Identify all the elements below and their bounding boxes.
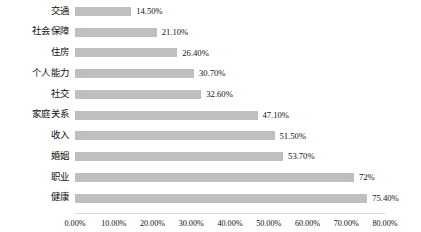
chart-plot-area: 交通14.50%社会保障21.10%住房26.40%个人能力30.70%社交32…: [0, 0, 421, 213]
bar-value-label: 75.40%: [372, 194, 399, 203]
bar-row: 家庭关系47.10%: [0, 105, 421, 126]
horizontal-bar-chart: 交通14.50%社会保障21.10%住房26.40%个人能力30.70%社交32…: [0, 0, 421, 232]
bar: [75, 111, 258, 120]
category-label: 收入: [0, 131, 69, 140]
bar-row: 个人能力30.70%: [0, 63, 421, 84]
bar-row: 社会保障21.10%: [0, 22, 421, 43]
bar-value-label: 21.10%: [162, 28, 189, 37]
bar-value-label: 32.60%: [206, 90, 233, 99]
x-tick-label: 10.00%: [101, 220, 126, 228]
bar-value-label: 53.70%: [288, 152, 315, 161]
x-tick-label: 40.00%: [217, 220, 242, 228]
bar-value-label: 47.10%: [263, 111, 290, 120]
bar-container: 32.60%: [75, 84, 233, 105]
x-tick-label: 20.00%: [140, 220, 165, 228]
category-label: 交通: [0, 7, 69, 16]
x-tick-label: 50.00%: [256, 220, 281, 228]
bar-container: 21.10%: [75, 22, 188, 43]
bar-container: 51.50%: [75, 126, 306, 147]
x-tick-label: 30.00%: [179, 220, 204, 228]
category-label: 住房: [0, 48, 69, 57]
category-label: 婚姻: [0, 152, 69, 161]
bar-value-label: 72%: [359, 173, 375, 182]
bar-row: 住房26.40%: [0, 43, 421, 64]
bar: [75, 173, 354, 182]
bar: [75, 194, 367, 203]
bar-row: 婚姻53.70%: [0, 146, 421, 167]
category-label: 家庭关系: [0, 110, 69, 119]
bar-container: 14.50%: [75, 1, 163, 22]
bar-value-label: 14.50%: [136, 7, 163, 16]
bar-container: 30.70%: [75, 63, 225, 84]
bar-value-label: 51.50%: [280, 132, 307, 141]
bar-row: 职业72%: [0, 167, 421, 188]
bar: [75, 152, 283, 161]
category-label: 社会保障: [0, 27, 69, 36]
x-tick-label: 80.00%: [372, 220, 397, 228]
bar: [75, 131, 275, 140]
bar-row: 交通14.50%: [0, 1, 421, 22]
bar-container: 47.10%: [75, 105, 289, 126]
category-label: 职业: [0, 173, 69, 182]
bar-row: 社交32.60%: [0, 84, 421, 105]
bar-container: 72%: [75, 167, 375, 188]
x-tick-label: 0.00%: [64, 220, 85, 228]
bar: [75, 7, 131, 16]
bar: [75, 69, 194, 78]
bar-row: 收入51.50%: [0, 126, 421, 147]
category-label: 个人能力: [0, 69, 69, 78]
category-label: 健康: [0, 193, 69, 202]
x-tick-label: 70.00%: [334, 220, 359, 228]
bar-container: 75.40%: [75, 188, 399, 209]
bar: [75, 28, 157, 37]
category-label: 社交: [0, 90, 69, 99]
x-tick-label: 60.00%: [295, 220, 320, 228]
bar-value-label: 26.40%: [182, 49, 209, 58]
bar: [75, 90, 201, 99]
bar-container: 53.70%: [75, 146, 315, 167]
bar-row: 健康75.40%: [0, 188, 421, 209]
bar-value-label: 30.70%: [199, 69, 226, 78]
x-axis: 0.00%10.00%20.00%30.00%40.00%50.00%60.00…: [0, 213, 421, 232]
bar-container: 26.40%: [75, 43, 209, 64]
x-axis-line: [75, 213, 385, 214]
bar: [75, 48, 177, 57]
